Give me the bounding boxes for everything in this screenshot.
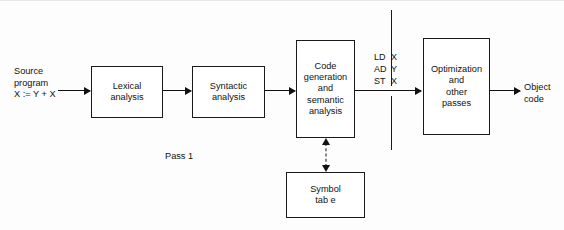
table-row: LD X (374, 52, 397, 64)
intermediate-code-listing: LD X AD Y ST X (374, 52, 397, 88)
arrowhead-down-icon (322, 165, 330, 172)
diagram-top-edge (0, 0, 564, 1)
table-row: ST X (374, 76, 397, 88)
box-syntactic-analysis[interactable]: Syntactic analysis (192, 66, 265, 118)
box-symbol-table[interactable]: Symbol tab e (286, 172, 365, 218)
box-optimization[interactable]: Optimization and other passes (423, 38, 490, 135)
intermediate-code-table: LD X AD Y ST X (374, 52, 397, 88)
box-optimization-label: Optimization and other passes (431, 64, 482, 109)
arrow-lexical-to-syntactic (163, 90, 191, 91)
listing-op: LD (374, 52, 391, 64)
box-code-generation[interactable]: Code generation and semantic analysis (296, 40, 355, 138)
listing-operand: X (391, 76, 397, 88)
source-program-label: Source program X := Y + X (14, 66, 86, 101)
arrow-codegen-to-optimization (355, 90, 421, 91)
box-lexical-analysis-label: Lexical analysis (110, 81, 143, 103)
listing-operand: X (391, 52, 397, 64)
listing-operand: Y (391, 64, 397, 76)
box-syntactic-analysis-label: Syntactic analysis (210, 81, 247, 103)
arrow-source-to-lexical (58, 90, 90, 91)
listing-op: ST (374, 76, 391, 88)
dashed-double-arrow-codegen-symboltable (318, 138, 334, 172)
box-code-generation-label: Code generation and semantic analysis (304, 61, 347, 117)
pass-1-label: Pass 1 (165, 151, 193, 163)
dashed-stem (326, 143, 327, 167)
object-code-label: Object code (524, 82, 564, 105)
arrow-syntactic-to-codegen (265, 90, 295, 91)
table-row: AD Y (374, 64, 397, 76)
compiler-pipeline-diagram: Source program X := Y + X Lexical analys… (0, 0, 564, 230)
box-symbol-table-label: Symbol tab e (310, 184, 341, 206)
pass-divider-line-lower (391, 96, 392, 150)
arrow-optimization-to-object-code (490, 90, 520, 91)
listing-op: AD (374, 64, 391, 76)
box-lexical-analysis[interactable]: Lexical analysis (91, 66, 163, 118)
